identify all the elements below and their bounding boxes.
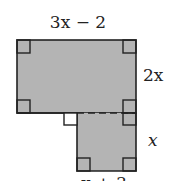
label-bottom: x + 3 xyxy=(81,173,126,181)
label-right-lower: x xyxy=(148,130,158,150)
upper-rectangle xyxy=(17,40,136,113)
composite-figure: 3x − 2 2x x x + 3 xyxy=(0,0,180,181)
right-angle-icon xyxy=(64,113,77,125)
lower-square xyxy=(77,113,136,171)
label-right-upper: 2x xyxy=(143,65,164,85)
label-top: 3x − 2 xyxy=(50,12,106,32)
